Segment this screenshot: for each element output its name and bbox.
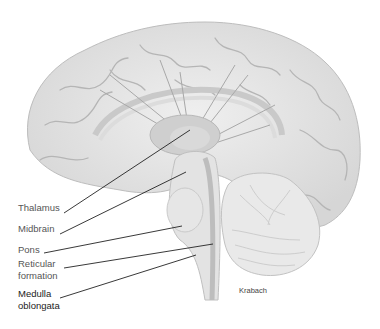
artist-credit: Krabach xyxy=(239,286,267,295)
label-formation: formation xyxy=(18,270,58,281)
label-thalamus: Thalamus xyxy=(18,202,60,213)
label-reticular: Reticular xyxy=(18,258,56,269)
label-pons: Pons xyxy=(18,244,40,255)
pons xyxy=(167,188,203,232)
label-medulla: Medulla xyxy=(18,288,51,299)
label-midbrain: Midbrain xyxy=(18,223,54,234)
brain-diagram: Thalamus Midbrain Pons Reticular formati… xyxy=(0,0,380,329)
label-oblongata: oblongata xyxy=(18,300,60,311)
